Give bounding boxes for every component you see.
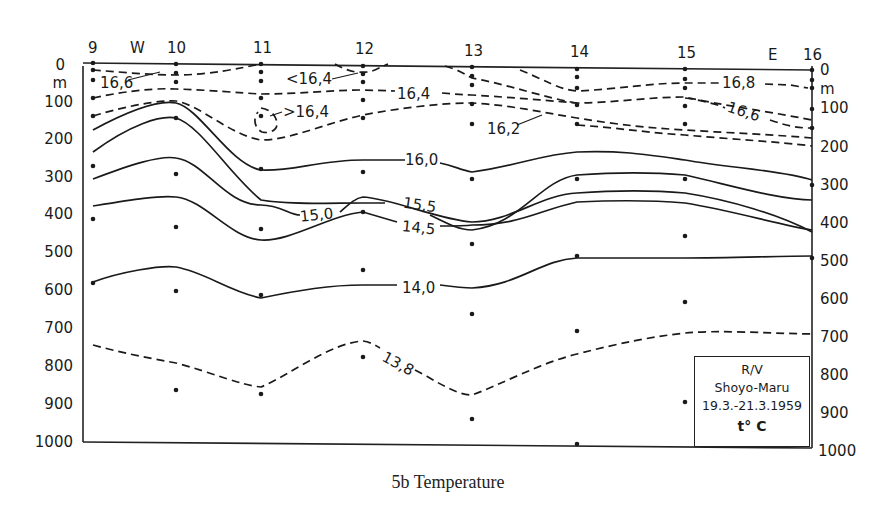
isotherm-15-5 xyxy=(93,117,812,230)
svg-text:100: 100 xyxy=(820,99,849,117)
station-label: 14 xyxy=(570,43,589,61)
svg-text:100: 100 xyxy=(44,93,73,111)
station-label: 12 xyxy=(355,40,374,58)
isotherm-label: 15,0 xyxy=(299,204,334,225)
legend-vessel-name: Shoyo-Maru xyxy=(695,379,809,397)
svg-text:500: 500 xyxy=(820,252,849,270)
station-label: 13 xyxy=(464,42,483,60)
svg-text:600: 600 xyxy=(44,281,73,299)
svg-text:400: 400 xyxy=(44,205,73,223)
legend-vessel-prefix: R/V xyxy=(695,361,809,379)
dashed-isotherms xyxy=(93,64,812,395)
svg-text:500: 500 xyxy=(44,243,73,261)
isotherm-label: 16,6 xyxy=(725,98,762,125)
svg-text:300: 300 xyxy=(44,168,73,186)
isotherm-label: 15,5 xyxy=(402,194,438,216)
svg-text:1000: 1000 xyxy=(35,433,73,451)
figure-caption: 5b Temperature xyxy=(0,472,896,493)
svg-text:300: 300 xyxy=(820,176,849,194)
svg-text:900: 900 xyxy=(820,404,849,422)
isotherm-label: 13,8 xyxy=(379,348,417,380)
west-label: W xyxy=(130,39,145,57)
isotherm-14-0 xyxy=(93,256,812,298)
svg-text:m: m xyxy=(52,74,67,92)
isotherm-15-0 xyxy=(93,157,812,232)
svg-text:0: 0 xyxy=(55,56,65,74)
svg-text:800: 800 xyxy=(820,366,849,384)
isotherm-16-0 xyxy=(93,102,812,180)
isotherm-labels: 16,6 <16,4 16,4 >16,4 16,2 16,8 16,6 16,… xyxy=(100,70,762,379)
isotherm-label: 14,5 xyxy=(401,217,436,238)
station-label: 11 xyxy=(253,39,272,57)
svg-text:1000: 1000 xyxy=(818,442,856,460)
station-label: 10 xyxy=(167,39,186,57)
isotherm-label: >16,4 xyxy=(283,103,329,121)
isotherm-label: <16,4 xyxy=(286,70,332,88)
isotherm-label: 16,2 xyxy=(487,120,520,138)
isotherm-16-4-upper xyxy=(93,89,812,120)
svg-text:200: 200 xyxy=(44,130,73,148)
svg-text:0: 0 xyxy=(820,61,830,79)
svg-text:800: 800 xyxy=(44,357,73,375)
svg-text:700: 700 xyxy=(44,319,73,337)
svg-text:200: 200 xyxy=(820,138,849,156)
isotherm-label: 16,4 xyxy=(397,85,430,103)
isotherm-label: 16,6 xyxy=(100,74,133,92)
isotherm-label: 14,0 xyxy=(402,279,435,297)
isotherm-label: 16,8 xyxy=(722,74,755,92)
svg-text:700: 700 xyxy=(820,328,849,346)
svg-text:400: 400 xyxy=(820,214,849,232)
legend-box: R/V Shoyo-Maru 19.3.-21.3.1959 t° C xyxy=(694,356,810,447)
station-label: 9 xyxy=(88,39,98,57)
legend-unit: t° C xyxy=(695,417,809,435)
east-label: E xyxy=(768,46,777,64)
isotherm-16-8 xyxy=(520,70,808,91)
svg-text:900: 900 xyxy=(44,395,73,413)
isotherm-label: 16,0 xyxy=(405,151,438,169)
svg-text:m: m xyxy=(820,80,835,98)
svg-text:600: 600 xyxy=(820,290,849,308)
left-depth-ticks: 0 m 100 200 300 400 500 600 700 800 900 … xyxy=(35,56,73,451)
isotherm-16-4-pocket-gt xyxy=(255,108,277,133)
label-leaders xyxy=(128,72,542,125)
station-labels: 9 W 10 11 12 13 14 15 E 16 xyxy=(88,39,822,64)
right-depth-ticks: 0 m 100 200 300 400 500 600 700 800 900 … xyxy=(818,61,856,460)
isotherm-16-2-lower xyxy=(577,125,812,146)
station-label: 15 xyxy=(677,44,696,62)
legend-dates: 19.3.-21.3.1959 xyxy=(695,397,809,415)
